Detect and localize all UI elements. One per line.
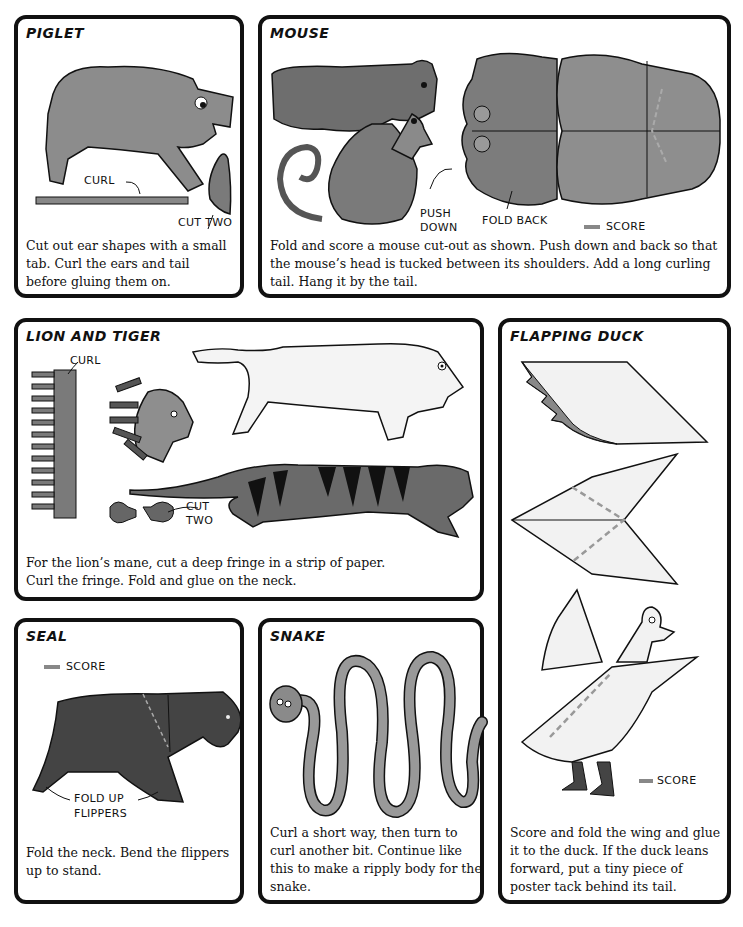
seal-illustration xyxy=(18,622,248,842)
curl-label: CURL xyxy=(70,354,101,367)
mouse-instructions: Fold and score a mouse cut-out as shown.… xyxy=(270,237,730,291)
piglet-instructions: Cut out ear shapes with a small tab. Cur… xyxy=(26,237,231,291)
panel-piglet: PIGLET CURL CUT TWO Cut out ear shapes w… xyxy=(14,15,244,298)
fold-up-label: FOLD UP xyxy=(74,792,124,805)
two-label: TWO xyxy=(186,514,213,527)
panel-lion-tiger: LION AND TIGER xyxy=(14,318,484,601)
panel-snake: SNAKE Curl a short way, then turn to cur… xyxy=(258,618,484,904)
lion-tiger-instructions: For the lion’s mane, cut a deep fringe i… xyxy=(26,554,386,590)
duck-illustration xyxy=(502,322,735,822)
score-label: SCORE xyxy=(606,220,645,233)
push-label: PUSH xyxy=(420,207,451,220)
cut-two-label: CUT TWO xyxy=(178,216,232,229)
seal-instructions: Fold the neck. Bend the flippers up to s… xyxy=(26,844,236,880)
duck-instructions: Score and fold the wing and glue it to t… xyxy=(510,824,725,896)
mouse-illustration xyxy=(262,19,735,239)
score-label: SCORE xyxy=(657,774,696,787)
panel-duck: FLAPPING DUCK SCORE Score and fold the w… xyxy=(498,318,731,904)
panel-seal: SEAL SCORE FOLD UP FLIPPERS Fold the nec… xyxy=(14,618,244,904)
flippers-label: FLIPPERS xyxy=(74,807,127,820)
snake-instructions: Curl a short way, then turn to curl anot… xyxy=(270,824,482,896)
curl-label: CURL xyxy=(84,174,115,187)
piglet-illustration xyxy=(18,19,248,239)
fold-back-label: FOLD BACK xyxy=(482,214,548,227)
snake-illustration xyxy=(262,622,488,842)
score-label: SCORE xyxy=(66,660,105,673)
panel-mouse: MOUSE PUSH DOWN FOLD BACK SCORE Fold and… xyxy=(258,15,731,298)
down-label: DOWN xyxy=(420,221,457,234)
cut-label: CUT xyxy=(186,500,209,513)
